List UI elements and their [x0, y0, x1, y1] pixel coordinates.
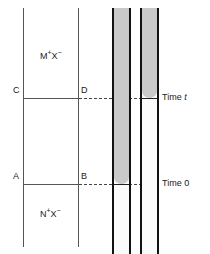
time-label-t: Time t [162, 93, 187, 102]
cell-wall-right [78, 8, 79, 247]
point-label-c: C [13, 86, 20, 95]
point-label-d: D [81, 86, 88, 95]
point-label-a: A [13, 172, 19, 181]
region-label-lower-anion-charge: − [57, 207, 61, 214]
tube-left [112, 8, 131, 254]
time-label-t-value: t [184, 92, 187, 102]
point-label-b: B [81, 172, 87, 181]
tube-right-wall-right [157, 8, 159, 254]
region-label-lower: N+X− [40, 210, 61, 219]
tube-right-level-tick [142, 98, 157, 99]
tube-left-level-tick [114, 184, 129, 185]
tube-right-wall-left [140, 8, 142, 254]
time-label-0-prefix: Time [162, 178, 184, 188]
time-label-t-prefix: Time [162, 92, 184, 102]
region-label-upper-anion-charge: − [58, 49, 62, 56]
boundary-line-ab [23, 184, 79, 185]
time-label-0-value: 0 [184, 178, 189, 188]
time-label-0: Time 0 [162, 179, 189, 188]
boundary-line-cd [23, 98, 79, 99]
tube-right-fill [142, 8, 157, 91]
tube-right [140, 8, 159, 254]
electrophoresis-diagram: M+X− N+X− C D A B Time t Time 0 [0, 0, 210, 254]
region-label-upper: M+X− [40, 52, 62, 61]
region-label-upper-cation: M [40, 51, 48, 61]
cell-wall-left [23, 8, 24, 247]
tube-left-wall-left [112, 8, 114, 254]
tube-left-wall-right [129, 8, 131, 254]
tube-left-fill [114, 8, 129, 177]
